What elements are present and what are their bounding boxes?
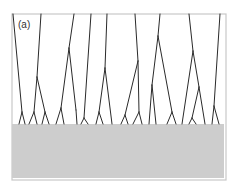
substrate-block: [12, 124, 224, 178]
branching-diagram: (a): [0, 0, 236, 188]
panel-label: (a): [18, 20, 30, 30]
diagram-canvas: [0, 0, 236, 188]
